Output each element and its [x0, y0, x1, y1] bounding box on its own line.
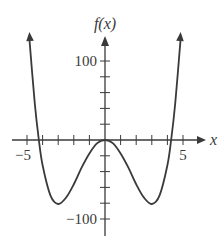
x-axis-arrow-icon — [197, 136, 206, 144]
curve-left-arrow-icon — [26, 32, 34, 41]
function-graph: −55100−100 f(x) x — [0, 0, 222, 236]
y-tick-label: 100 — [75, 53, 98, 69]
y-axis-arrow-icon — [101, 36, 109, 46]
y-axis — [101, 36, 109, 236]
y-axis-label: f(x) — [94, 15, 116, 33]
y-tick-label: −100 — [66, 211, 97, 227]
x-axis-label: x — [209, 131, 217, 148]
x-tick-label: −5 — [15, 147, 31, 163]
x-tick-label: 5 — [179, 147, 187, 163]
curve-right-arrow-icon — [176, 32, 184, 41]
